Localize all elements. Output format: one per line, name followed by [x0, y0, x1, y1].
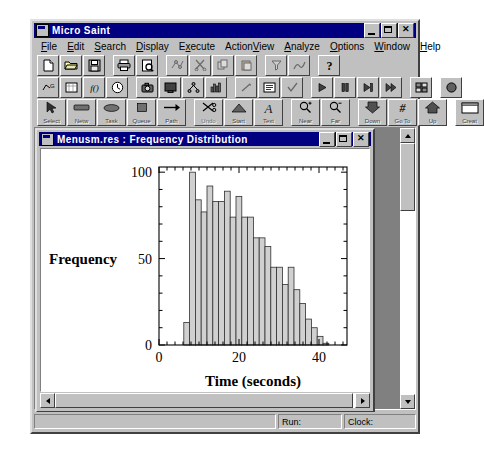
menu-item-analyze[interactable]: Analyze [279, 40, 325, 53]
menu-item-help[interactable]: Help [415, 40, 446, 53]
histogram-bar [195, 200, 201, 345]
tool-label: Select [38, 118, 65, 125]
list-icon[interactable] [258, 77, 280, 98]
hscroll-track[interactable] [55, 393, 355, 408]
histogram-bar [236, 196, 242, 345]
child-title-bar[interactable]: Menusm.res : Frequency Distribution ✕ [39, 132, 371, 146]
y-axis-title: Frequency [49, 251, 118, 267]
y-tick-label: 100 [131, 165, 152, 180]
run-play-icon[interactable] [311, 77, 333, 98]
go-up-tool[interactable]: Up [418, 99, 447, 126]
save-disk-icon[interactable] [83, 55, 105, 76]
zoom-in-tool[interactable]: Near [291, 99, 320, 126]
menu-item-actionview[interactable]: ActionView [220, 40, 279, 53]
magnifier-minus-icon [322, 101, 349, 114]
menu-item-search[interactable]: Search [89, 40, 131, 53]
hscroll-thumb[interactable] [55, 393, 353, 408]
child-horizontal-scrollbar[interactable] [40, 393, 370, 408]
child-close-button[interactable]: ✕ [353, 132, 369, 147]
batch-icon[interactable] [410, 77, 432, 98]
ellipse-icon [98, 101, 125, 114]
status-bar: Run: Clock: [34, 412, 416, 430]
goto-tool[interactable]: #Go To [388, 99, 417, 126]
y-tick-label: 50 [138, 252, 152, 267]
variables-icon[interactable] [60, 77, 82, 98]
application-icon [36, 24, 49, 37]
menu-item-options[interactable]: Options [325, 40, 369, 53]
tool-label: Path [158, 118, 185, 125]
function-icon[interactable]: f() [83, 77, 105, 98]
histogram-icon[interactable] [205, 77, 227, 98]
start-tool[interactable]: Start [224, 99, 253, 126]
tool-label: Netw [68, 118, 95, 125]
histogram-bar [300, 304, 306, 345]
paste-icon [235, 55, 257, 76]
text-tool[interactable]: AText [254, 99, 283, 126]
path-tool[interactable]: Path [157, 99, 186, 126]
main-title-bar[interactable]: Micro Saint ✕ [34, 23, 416, 38]
task-tool[interactable]: Task [97, 99, 126, 126]
go-down-tool[interactable]: Down [358, 99, 387, 126]
pause-icon[interactable] [334, 77, 356, 98]
toolbar-standard: ? [34, 54, 416, 76]
step-icon[interactable] [357, 77, 379, 98]
main-window-buttons: ✕ [364, 23, 414, 38]
menu-item-display[interactable]: Display [131, 40, 174, 53]
menu-item-window[interactable]: Window [369, 40, 415, 53]
tool-label: Task [98, 118, 125, 125]
print-icon[interactable] [113, 55, 135, 76]
mdi-vertical-scrollbar[interactable] [400, 128, 415, 409]
rectangle-icon [68, 101, 95, 114]
histogram-bar [213, 202, 219, 345]
tool-label: Start [225, 118, 252, 125]
maximize-button[interactable] [381, 23, 397, 38]
mdi-vscroll-up-arrow[interactable] [400, 128, 415, 143]
mdi-vscroll-down-arrow[interactable] [400, 394, 415, 409]
print-preview-icon[interactable] [136, 55, 158, 76]
zoom-out-tool[interactable]: Far [321, 99, 350, 126]
scissors-cut-icon [189, 55, 211, 76]
histogram-bar [219, 202, 225, 345]
minimize-button[interactable] [364, 23, 380, 38]
record-icon[interactable] [440, 77, 462, 98]
network-tool[interactable]: Netw [67, 99, 96, 126]
scenario-icon[interactable]: G [37, 77, 59, 98]
clock-icon[interactable] [106, 77, 128, 98]
histogram-bar [282, 285, 288, 345]
chart-canvas: 02040050100Time (seconds)Frequency [40, 148, 370, 392]
close-button[interactable]: ✕ [398, 23, 414, 38]
new-file-icon[interactable] [37, 55, 59, 76]
mdi-vscroll-thumb[interactable] [400, 143, 415, 211]
menu-item-execute[interactable]: Execute [174, 40, 220, 53]
create-window-tool[interactable]: Creat [455, 99, 484, 126]
chart-icon [288, 55, 310, 76]
tool-label: Undo [195, 118, 222, 125]
fast-forward-icon[interactable] [380, 77, 402, 98]
menu-bar: FileEditSearchDisplayExecuteActionViewAn… [34, 39, 416, 53]
histogram-bar [317, 336, 323, 345]
histogram-bar [271, 267, 277, 345]
menu-item-file[interactable]: File [36, 40, 62, 53]
hierarchy-icon[interactable] [182, 77, 204, 98]
hscroll-left-arrow[interactable] [40, 393, 55, 408]
child-minimize-button[interactable] [319, 132, 335, 147]
triangle-icon [225, 101, 252, 114]
main-window: Micro Saint ✕ FileEditSearchDisplayExecu… [30, 19, 420, 434]
select-tool[interactable]: Select [37, 99, 66, 126]
menu-item-edit[interactable]: Edit [62, 40, 89, 53]
svg-text:f(): f() [90, 83, 99, 93]
snapshot-icon[interactable] [136, 77, 158, 98]
histogram-bar [242, 217, 248, 345]
status-run-panel: Run: [278, 414, 342, 429]
open-folder-icon[interactable] [60, 55, 82, 76]
hscroll-right-arrow[interactable] [355, 393, 370, 408]
monitor-icon[interactable] [159, 77, 181, 98]
undo-tool[interactable]: Undo [194, 99, 223, 126]
queue-tool[interactable]: Queue [127, 99, 156, 126]
arrow-down-solid-icon [359, 101, 386, 114]
help-question-icon[interactable]: ? [318, 55, 340, 76]
histogram-bar [277, 267, 283, 345]
histogram-bar [294, 290, 300, 345]
child-maximize-button[interactable] [336, 132, 352, 147]
mdi-vscroll-track[interactable] [400, 143, 415, 394]
